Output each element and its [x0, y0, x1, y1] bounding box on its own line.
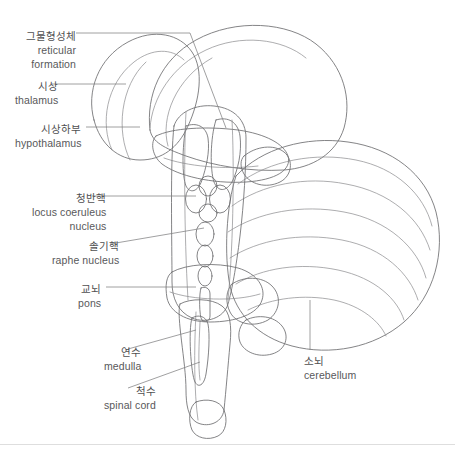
label-thalamus-ko: 시상 [15, 80, 58, 94]
label-reticular-formation-ko: 그물형성체 [26, 30, 77, 44]
label-thalamus-en: thalamus [15, 94, 58, 108]
label-raphe-nucleus-ko: 솔기핵 [52, 240, 119, 254]
label-pons-en: pons [78, 297, 101, 311]
label-locus-coeruleus-ko: 청반핵 [32, 192, 106, 206]
hypothalamus-body [153, 119, 289, 191]
label-cerebellum-ko: 소뇌 [304, 355, 356, 369]
label-reticular-formation-en-1: reticular [26, 44, 77, 58]
label-pons: 교뇌 pons [78, 283, 101, 311]
label-locus-coeruleus-en-1: locus coeruleus [32, 206, 106, 220]
spinal-cord-stump [190, 400, 226, 438]
cerebrum-outline [149, 25, 347, 170]
leader-reticular-formation [76, 33, 226, 128]
locus-coeruleus-nuclei [186, 176, 231, 222]
thalamus-body [92, 34, 200, 160]
bottom-divider [0, 444, 455, 445]
label-locus-coeruleus-nucleus: 청반핵 locus coeruleus nucleus [32, 192, 106, 234]
label-locus-coeruleus-en-2: nucleus [32, 220, 106, 234]
label-spinal-cord-ko: 척수 [104, 385, 156, 399]
label-hypothalamus-en: hypothalamus [15, 137, 82, 151]
cerebellum-body [227, 140, 440, 355]
label-spinal-cord: 척수 spinal cord [104, 385, 156, 413]
label-reticular-formation-en-2: formation [26, 58, 77, 72]
label-spinal-cord-en: spinal cord [104, 399, 156, 413]
raphe-nuclei-chain [196, 222, 214, 321]
pons-body [166, 265, 263, 322]
label-hypothalamus-ko: 시상하부 [15, 123, 82, 137]
spinal-cord-body [190, 316, 209, 385]
brainstem-column [172, 106, 247, 321]
label-medulla-ko: 연수 [104, 346, 141, 360]
label-raphe-nucleus: 솔기핵 raphe nucleus [52, 240, 119, 268]
label-pons-ko: 교뇌 [78, 283, 101, 297]
label-hypothalamus: 시상하부 hypothalamus [15, 123, 82, 151]
label-medulla-en: medulla [104, 360, 141, 374]
label-thalamus: 시상 thalamus [15, 80, 58, 108]
label-cerebellum: 소뇌 cerebellum [304, 355, 356, 383]
anatomical-diagram: 그물형성체 reticular formation 시상 thalamus 시상… [0, 0, 455, 459]
label-reticular-formation: 그물형성체 reticular formation [26, 30, 77, 72]
leader-raphe-nucleus [110, 228, 204, 244]
label-raphe-nucleus-en: raphe nucleus [52, 254, 119, 268]
label-cerebellum-en: cerebellum [304, 369, 356, 383]
label-medulla: 연수 medulla [104, 346, 141, 374]
